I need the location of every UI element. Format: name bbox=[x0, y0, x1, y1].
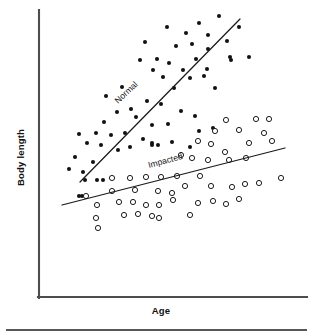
data-point bbox=[95, 225, 100, 230]
data-point bbox=[213, 86, 217, 90]
data-point bbox=[143, 174, 148, 179]
data-point bbox=[67, 167, 71, 171]
data-point bbox=[206, 33, 210, 37]
data-point bbox=[195, 200, 200, 205]
data-point bbox=[205, 67, 209, 71]
data-point bbox=[169, 190, 174, 195]
data-point bbox=[101, 178, 105, 182]
data-point bbox=[197, 129, 201, 133]
data-point bbox=[85, 141, 89, 145]
series-label-normal: Normal bbox=[113, 79, 140, 105]
data-point bbox=[197, 173, 202, 178]
data-point bbox=[225, 39, 229, 43]
data-point bbox=[205, 157, 210, 162]
data-point bbox=[165, 25, 169, 29]
data-point bbox=[182, 183, 187, 188]
data-point bbox=[237, 25, 241, 29]
data-point bbox=[208, 183, 213, 188]
data-point bbox=[236, 196, 241, 201]
data-point bbox=[109, 133, 113, 137]
data-point bbox=[266, 116, 271, 121]
data-point bbox=[261, 130, 266, 135]
data-point bbox=[246, 140, 251, 145]
data-point bbox=[151, 68, 155, 72]
data-point bbox=[181, 68, 185, 72]
data-point bbox=[115, 110, 119, 114]
data-point bbox=[242, 181, 247, 186]
data-point bbox=[217, 14, 221, 18]
data-point bbox=[149, 213, 154, 218]
data-point bbox=[138, 58, 142, 62]
x-axis-title: Age bbox=[152, 305, 171, 316]
data-point bbox=[109, 175, 114, 180]
data-point bbox=[129, 107, 133, 111]
data-point bbox=[156, 143, 160, 147]
data-point bbox=[236, 127, 241, 132]
data-point bbox=[247, 55, 251, 59]
data-point bbox=[223, 201, 228, 206]
data-point bbox=[278, 175, 283, 180]
data-point bbox=[116, 199, 121, 204]
data-point bbox=[150, 123, 154, 127]
data-point bbox=[130, 199, 135, 204]
data-point bbox=[77, 132, 81, 136]
data-point bbox=[197, 21, 201, 25]
data-point bbox=[194, 57, 198, 61]
data-point bbox=[167, 61, 171, 65]
y-axis-title: Body length bbox=[15, 129, 26, 186]
data-point bbox=[99, 143, 103, 147]
data-point bbox=[155, 188, 160, 193]
data-point bbox=[127, 175, 132, 180]
data-point bbox=[229, 184, 234, 189]
data-point bbox=[161, 75, 165, 79]
data-point bbox=[188, 76, 192, 80]
data-point bbox=[95, 178, 99, 182]
data-point bbox=[208, 141, 213, 146]
data-point bbox=[134, 115, 138, 119]
data-point bbox=[143, 40, 147, 44]
data-point bbox=[93, 215, 98, 220]
normal-data-points bbox=[67, 14, 251, 198]
data-point bbox=[256, 180, 261, 185]
data-point bbox=[188, 145, 192, 149]
data-point bbox=[150, 143, 154, 147]
data-point bbox=[116, 148, 120, 152]
series-label-impacted: Impacted bbox=[147, 151, 184, 170]
data-point bbox=[195, 138, 200, 143]
data-point bbox=[269, 138, 274, 143]
normal-series-group bbox=[67, 14, 251, 198]
plot-canvas: Normal Impacted Body length Age bbox=[0, 0, 313, 336]
data-point bbox=[193, 114, 197, 118]
data-point bbox=[212, 128, 217, 133]
data-point bbox=[170, 197, 175, 202]
data-point bbox=[190, 42, 194, 46]
data-point bbox=[223, 117, 228, 122]
data-point bbox=[73, 155, 77, 159]
data-point bbox=[170, 140, 174, 144]
data-point bbox=[94, 202, 99, 207]
data-point bbox=[91, 160, 95, 164]
data-point bbox=[189, 155, 194, 160]
data-point bbox=[132, 187, 137, 192]
data-point bbox=[179, 109, 183, 113]
data-point bbox=[210, 198, 215, 203]
data-point bbox=[187, 212, 192, 217]
data-point bbox=[184, 31, 188, 35]
scatter-plot-figure: Normal Impacted Body length Age bbox=[0, 0, 313, 336]
data-point bbox=[228, 55, 232, 59]
data-point bbox=[143, 202, 148, 207]
data-point bbox=[141, 137, 145, 141]
data-point bbox=[102, 120, 106, 124]
data-point bbox=[159, 102, 163, 106]
data-point bbox=[253, 116, 258, 121]
data-point bbox=[135, 211, 140, 216]
data-point bbox=[128, 145, 132, 149]
data-point bbox=[166, 122, 170, 126]
data-point bbox=[94, 131, 98, 135]
data-point bbox=[156, 215, 161, 220]
data-point bbox=[121, 212, 126, 217]
data-point bbox=[81, 170, 85, 174]
data-point bbox=[156, 202, 161, 207]
data-point bbox=[145, 99, 149, 103]
data-point bbox=[104, 94, 108, 98]
